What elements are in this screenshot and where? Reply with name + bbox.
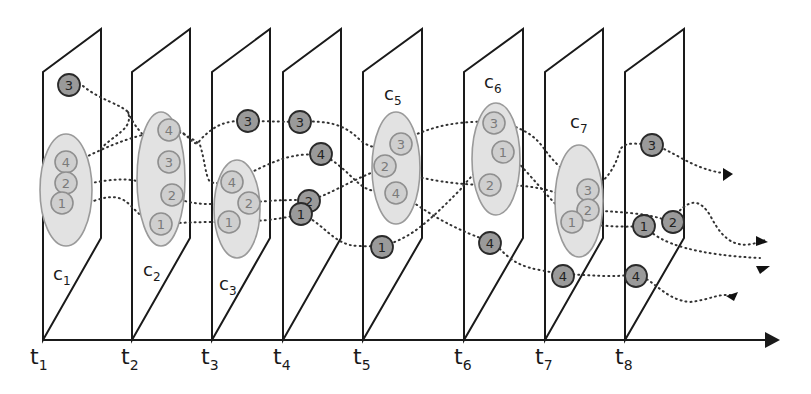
svg-text:1: 1 — [499, 145, 507, 160]
svg-text:1: 1 — [640, 219, 648, 234]
svg-text:4: 4 — [486, 236, 494, 251]
plane-t4 — [283, 29, 341, 340]
svg-text:2: 2 — [584, 203, 592, 218]
cluster-c7 — [555, 145, 603, 257]
svg-text:1: 1 — [378, 240, 386, 255]
time-label-t1: t1 — [30, 344, 48, 373]
arrowhead-icon — [756, 236, 768, 246]
trajectory-arrowheads — [723, 168, 770, 301]
time-labels: t1 t2 t3 t4 t5 t6 t7 t8 — [30, 344, 633, 373]
svg-text:1: 1 — [297, 207, 305, 222]
svg-text:2: 2 — [245, 196, 253, 211]
arrowhead-icon — [756, 266, 770, 274]
svg-text:1: 1 — [58, 196, 66, 211]
arrowhead-icon — [726, 292, 738, 301]
trajectory-cluster-diagram: 4 2 1 4 3 2 1 4 2 1 3 2 4 3 1 2 — [0, 0, 811, 394]
svg-text:3: 3 — [397, 137, 405, 152]
svg-text:2: 2 — [486, 178, 494, 193]
svg-text:3: 3 — [648, 138, 656, 153]
time-label-t2: t2 — [121, 344, 139, 373]
time-label-t4: t4 — [273, 344, 291, 373]
svg-text:1: 1 — [157, 217, 165, 232]
svg-text:3: 3 — [296, 115, 304, 130]
svg-text:4: 4 — [632, 269, 640, 284]
arrowhead-icon — [723, 168, 733, 181]
time-label-t7: t7 — [535, 344, 553, 373]
svg-text:3: 3 — [584, 183, 592, 198]
svg-text:3: 3 — [165, 155, 173, 170]
svg-text:4: 4 — [317, 147, 325, 162]
svg-text:2: 2 — [62, 176, 70, 191]
svg-text:1: 1 — [225, 215, 233, 230]
svg-text:2: 2 — [168, 188, 176, 203]
svg-text:3: 3 — [65, 78, 73, 93]
time-label-t3: t3 — [201, 344, 219, 373]
svg-text:4: 4 — [559, 269, 567, 284]
svg-text:4: 4 — [165, 123, 173, 138]
svg-text:3: 3 — [490, 116, 498, 131]
time-label-t6: t6 — [454, 344, 472, 373]
time-label-t5: t5 — [353, 344, 371, 373]
svg-text:1: 1 — [568, 215, 576, 230]
svg-text:2: 2 — [669, 215, 677, 230]
svg-text:3: 3 — [244, 114, 252, 129]
plane-t8 — [625, 29, 684, 340]
svg-text:4: 4 — [228, 175, 236, 190]
time-label-t8: t8 — [615, 344, 633, 373]
svg-text:4: 4 — [392, 186, 400, 201]
time-axis-arrowhead-icon — [765, 332, 780, 348]
svg-text:4: 4 — [62, 155, 70, 170]
svg-text:2: 2 — [381, 159, 389, 174]
